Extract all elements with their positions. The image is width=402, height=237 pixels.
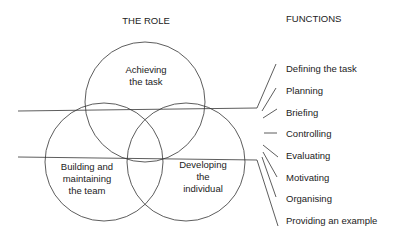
function-item: Briefing — [286, 107, 318, 119]
label-line: Achieving — [125, 64, 166, 76]
circle-label-individual: Developing the individual — [179, 159, 227, 195]
role-heading: THE ROLE — [122, 15, 170, 27]
function-item: Planning — [286, 85, 323, 97]
label-line: Building and — [61, 161, 113, 173]
label-line: the team — [61, 185, 113, 197]
function-item: Evaluating — [286, 150, 330, 162]
function-item: Defining the task — [286, 63, 357, 75]
circle-label-team: Building and maintaining the team — [61, 161, 113, 197]
circle-achieving-task — [85, 42, 205, 162]
function-item: Motivating — [286, 172, 329, 184]
function-item: Providing an example — [286, 215, 377, 227]
label-line: individual — [179, 183, 227, 195]
label-line: Developing — [179, 159, 227, 171]
venn-diagram-graphics — [0, 0, 402, 237]
circle-label-task: Achieving the task — [125, 64, 166, 88]
label-line: maintaining — [61, 173, 113, 185]
label-line: the task — [125, 76, 166, 88]
bracket-line-lower — [18, 157, 278, 226]
function-item: Controlling — [286, 128, 331, 140]
label-line: the — [179, 171, 227, 183]
function-item: Organising — [286, 193, 332, 205]
functions-heading: FUNCTIONS — [286, 13, 341, 25]
